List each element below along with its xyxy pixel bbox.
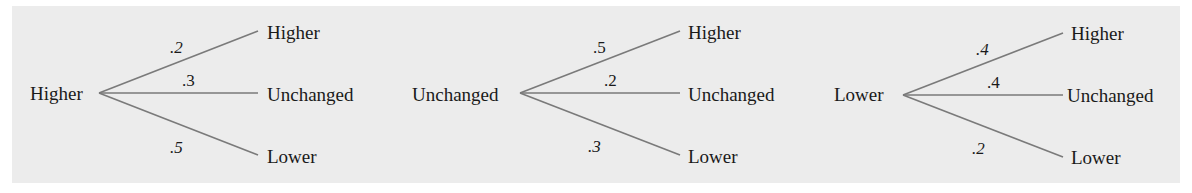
root-node-label: Higher	[30, 83, 83, 104]
probability-tree-diagram: Higher .2 .3 .5 Higher Unchanged Lower U…	[0, 0, 1192, 193]
branch-probability-middle: .3	[182, 71, 195, 90]
outcome-node-label: Higher	[1071, 23, 1124, 44]
branch-probability-upper: .4	[976, 40, 989, 59]
branch-probability-lower: .3	[588, 137, 601, 156]
tree-higher: Higher .2 .3 .5 Higher Unchanged Lower	[30, 22, 354, 167]
outcome-node-label: Higher	[267, 22, 320, 43]
tree-lower: Lower .4 .4 .2 Higher Unchanged Lower	[834, 23, 1154, 168]
outcome-node-label: Higher	[688, 22, 741, 43]
branch-probability-lower: .5	[170, 138, 183, 157]
root-node-label: Unchanged	[412, 84, 499, 105]
branch-probability-lower: .2	[972, 139, 985, 158]
outcome-node-label: Lower	[267, 146, 317, 167]
outcome-node-label: Unchanged	[1067, 85, 1154, 106]
branch-probability-middle: .2	[604, 71, 617, 90]
tree-unchanged: Unchanged .5 .2 .3 Higher Unchanged Lowe…	[412, 22, 775, 167]
root-node-label: Lower	[834, 84, 884, 105]
branch-probability-upper: .2	[170, 38, 183, 57]
outcome-node-label: Unchanged	[267, 84, 354, 105]
outcome-node-label: Unchanged	[688, 84, 775, 105]
branch-probability-upper: .5	[593, 38, 606, 57]
outcome-node-label: Lower	[1071, 147, 1121, 168]
outcome-node-label: Lower	[688, 146, 738, 167]
branch-probability-middle: .4	[987, 73, 1000, 92]
